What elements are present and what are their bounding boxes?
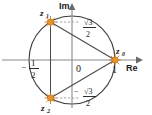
denominator-two: 2: [31, 70, 36, 80]
annotation-sqrt3-over-2-upper: √3 2: [83, 18, 96, 39]
negative-sign-minus-half: −: [21, 62, 26, 72]
point-label-z0: z 0: [115, 46, 125, 57]
imaginary-axis-label: Im: [59, 1, 70, 11]
denominator-two-lower: 2: [86, 99, 90, 108]
point-label-z2-base: z: [40, 103, 45, 113]
imaginary-axis-arrow-icon: [69, 3, 76, 10]
denominator-two-upper: 2: [86, 30, 90, 39]
origin-label: 0: [76, 63, 81, 74]
point-label-z0-subscript: 0: [122, 51, 125, 57]
tick-label-one: 1: [112, 64, 117, 75]
point-label-z1-subscript: 1: [46, 13, 49, 19]
point-marker-z2[interactable]: [45, 92, 57, 104]
chord-z2-z0: [51, 60, 116, 98]
point-label-z0-base: z: [115, 46, 120, 56]
numerator-one: 1: [31, 58, 36, 68]
point-label-z1-base: z: [39, 8, 44, 18]
point-label-z2: z 2: [40, 103, 50, 114]
real-axis-label: Re: [126, 63, 138, 73]
chord-z1-z0: [51, 22, 116, 60]
minus-sign-lower: −: [74, 87, 79, 96]
cube-roots-of-unity-diagram: Re Im 0 1 − 1 2 √3 2 − √3 2 z 0: [0, 0, 152, 115]
radical-sqrt3-lower: √3: [84, 87, 92, 96]
complex-plane-figure: Re Im 0 1 − 1 2 √3 2 − √3 2 z 0: [0, 0, 152, 115]
point-label-z2-subscript: 2: [46, 108, 50, 114]
point-label-z1: z 1: [39, 8, 49, 19]
radical-sqrt3-upper: √3: [84, 18, 92, 27]
annotation-sqrt3-over-2-lower: − √3 2: [74, 87, 96, 108]
